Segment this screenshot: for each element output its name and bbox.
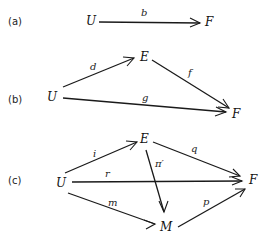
edge-d-label: d bbox=[90, 61, 96, 72]
diagram-a: (a) U F b bbox=[8, 7, 214, 29]
diagram-b-label: (b) bbox=[8, 94, 22, 105]
node-e: E bbox=[139, 50, 149, 64]
node-f: F bbox=[231, 107, 241, 121]
diagram-canvas: (a) U F b (b) U E F d f g (c) U E F M i bbox=[0, 0, 263, 239]
edge-f-label: f bbox=[187, 67, 194, 78]
edge-d-arrow bbox=[63, 58, 134, 87]
diagram-b: (b) U E F d f g bbox=[8, 50, 241, 121]
node-f: F bbox=[204, 15, 214, 29]
edge-r-label: r bbox=[105, 168, 111, 179]
node-e: E bbox=[139, 132, 149, 146]
node-u: U bbox=[47, 90, 58, 104]
diagram-c: (c) U E F M i q r π′ m p bbox=[8, 132, 258, 234]
edge-r-arrow bbox=[72, 181, 242, 182]
edge-i-label: i bbox=[93, 148, 96, 159]
edge-p-label: p bbox=[203, 196, 210, 207]
node-u: U bbox=[86, 14, 97, 28]
node-m: M bbox=[159, 220, 173, 234]
diagram-c-label: (c) bbox=[8, 175, 21, 186]
arrowhead-icon bbox=[159, 201, 168, 212]
edge-p-arrow bbox=[178, 189, 245, 227]
edge-q-label: q bbox=[191, 143, 197, 154]
edge-i-arrow bbox=[65, 142, 137, 173]
edge-b-label: b bbox=[141, 7, 147, 18]
edge-b-arrow bbox=[99, 22, 200, 23]
diagram-a-label: (a) bbox=[8, 16, 22, 27]
edge-m-label: m bbox=[108, 197, 117, 208]
edge-pi-label: π′ bbox=[154, 158, 165, 169]
node-f: F bbox=[248, 173, 258, 187]
node-u: U bbox=[56, 176, 67, 190]
edge-g-label: g bbox=[142, 92, 148, 103]
